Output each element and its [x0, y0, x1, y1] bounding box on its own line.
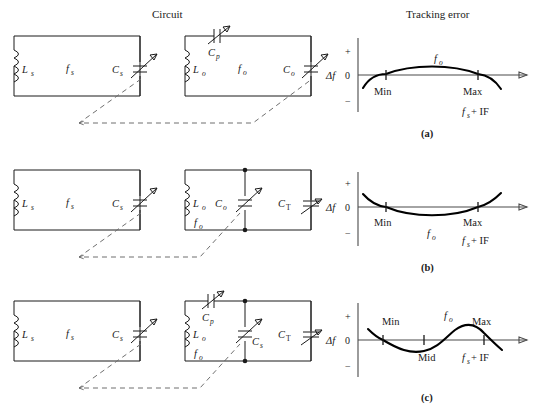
inductor-ls-c — [14, 315, 19, 347]
ganging-link-c — [79, 344, 240, 391]
trimmer-capacitor-ct-b — [301, 170, 322, 230]
frequency-fs-sub-b: s — [71, 202, 74, 211]
inductor-lo-sub-c: o — [202, 334, 206, 343]
y-axis-minus-a: − — [345, 96, 351, 107]
oscillator-circuit-c: C p L o f o — [185, 291, 322, 363]
inductor-lo-label-c: L — [192, 329, 199, 340]
inductor-lo-b — [185, 184, 190, 216]
y-axis-zero-b: 0 — [345, 202, 350, 213]
frequency-fs-sub-c: s — [71, 333, 74, 342]
padder-cp-label-c: C — [202, 312, 210, 323]
trimmer-capacitor-ct-c — [301, 301, 322, 361]
inductor-ls-label-c: L — [21, 329, 28, 340]
frequency-fo-sub-b: o — [199, 222, 203, 231]
capacitor-cs-osc-sub-c: s — [260, 341, 263, 350]
y-axis-plus-a: + — [345, 46, 351, 57]
capacitor-cs-sub-b: s — [120, 203, 123, 212]
signal-circuit-c: L s f s C s — [14, 301, 157, 361]
capacitor-cs-label-a: C — [112, 64, 120, 75]
inductor-ls-label-b: L — [21, 198, 28, 209]
ganging-link-a — [79, 79, 312, 126]
y-axis-minus-b: − — [345, 228, 351, 239]
trimmer-ct-sub-b: T — [286, 203, 291, 212]
curve-label-fo-sub-c: o — [449, 315, 453, 324]
zero-crossing-min-c: Min — [382, 316, 400, 327]
curve-label-fo-sub-a: o — [439, 58, 443, 67]
variable-capacitor-co-b — [236, 168, 262, 233]
inductor-ls-label-a: L — [21, 64, 28, 75]
ganging-link-b — [79, 213, 240, 260]
row-b: L s f s C s — [14, 168, 527, 260]
padder-cp-label-a: C — [208, 47, 216, 58]
capacitor-cs-osc-label-c: C — [252, 336, 260, 347]
y-axis-zero-a: 0 — [345, 70, 350, 81]
zero-crossing-max-b: Max — [463, 217, 483, 228]
trimmer-ct-label-b: C — [278, 198, 286, 209]
inductor-lo-sub-b: o — [202, 203, 206, 212]
y-axis-plus-b: + — [345, 178, 351, 189]
inductor-lo-label-b: L — [192, 198, 199, 209]
inductor-lo-c — [185, 315, 190, 347]
frequency-fo-sub-c: o — [199, 353, 203, 362]
y-axis-label-c: Δf — [325, 335, 337, 346]
oscillator-circuit-a: C p L o f o C — [185, 26, 328, 96]
capacitor-cs-sub-c: s — [120, 334, 123, 343]
tracking-error-graph-a: Δf 0 + − Min Max f o f s + IF — [325, 38, 527, 120]
capacitor-cs-sub-a: s — [120, 69, 123, 78]
variable-capacitor-co-a — [302, 36, 328, 96]
trimmer-ct-sub-c: T — [286, 334, 291, 343]
x-axis-label-sub-a: s — [467, 111, 470, 120]
x-axis-label-tail-a: + IF — [471, 106, 489, 117]
zero-crossing-min-a: Min — [374, 86, 392, 97]
y-axis-label-a: Δf — [325, 70, 337, 81]
inductor-ls-a — [14, 50, 19, 82]
inductor-lo-a — [185, 50, 190, 82]
y-axis-zero-c: 0 — [345, 335, 350, 346]
capacitor-co-label-a: C — [283, 64, 291, 75]
signal-circuit-a: L s f s C s — [14, 36, 157, 96]
capacitor-co-label-b: C — [215, 198, 223, 209]
variable-capacitor-cs-osc-c — [236, 299, 262, 364]
padder-capacitor-cp-c — [202, 291, 224, 309]
padder-capacitor-cp-a — [208, 26, 230, 44]
capacitor-co-sub-a: o — [291, 69, 295, 78]
frequency-fs-sub-a: s — [71, 68, 74, 77]
inductor-ls-b — [14, 184, 19, 216]
zero-crossing-min-b: Min — [374, 217, 392, 228]
inductor-ls-sub-a: s — [31, 69, 34, 78]
capacitor-co-sub-b: o — [223, 203, 227, 212]
capacitor-cs-label-c: C — [112, 329, 120, 340]
x-axis-label-sub-c: s — [467, 357, 470, 366]
capacitor-cs-label-b: C — [112, 198, 120, 209]
y-axis-label-b: Δf — [325, 202, 337, 213]
tracking-error-graph-b: Δf 0 + − Min Max f o f s + IF — [325, 172, 527, 249]
inductor-lo-label-a: L — [192, 64, 199, 75]
padder-cp-sub-c: p — [209, 317, 214, 326]
zero-crossing-mid-c: Mid — [418, 352, 436, 363]
trimmer-ct-label-c: C — [278, 329, 286, 340]
figure-canvas: L s f s C s — [0, 0, 547, 413]
inductor-ls-sub-b: s — [31, 203, 34, 212]
variable-capacitor-cs-a — [131, 36, 157, 96]
variable-capacitor-cs-c — [131, 301, 157, 361]
variable-capacitor-cs-b — [131, 170, 157, 230]
oscillator-circuit-b: L o f o C o — [185, 168, 322, 233]
inductor-lo-sub-a: o — [202, 69, 206, 78]
x-axis-label-sub-b: s — [467, 240, 470, 249]
padder-cp-sub-a: p — [215, 52, 220, 61]
signal-circuit-b: L s f s C s — [14, 170, 157, 230]
frequency-fo-sub-a: o — [243, 68, 247, 77]
inductor-ls-sub-c: s — [31, 334, 34, 343]
tracking-error-graph-c: Δf 0 + − Min Mid Max f o f s + IF — [325, 303, 527, 377]
y-axis-plus-c: + — [345, 311, 351, 322]
x-axis-label-tail-c: + IF — [471, 352, 489, 363]
figure-tracking-error: Circuit Tracking error (a) (b) (c) L s f… — [0, 0, 547, 413]
row-c: L s f s C s — [14, 291, 527, 391]
zero-crossing-max-c: Max — [472, 316, 492, 327]
x-axis-label-tail-b: + IF — [471, 235, 489, 246]
curve-label-fo-sub-b: o — [432, 233, 436, 242]
y-axis-minus-c: − — [345, 361, 351, 372]
row-a: L s f s C s — [14, 26, 527, 126]
zero-crossing-max-a: Max — [463, 86, 483, 97]
